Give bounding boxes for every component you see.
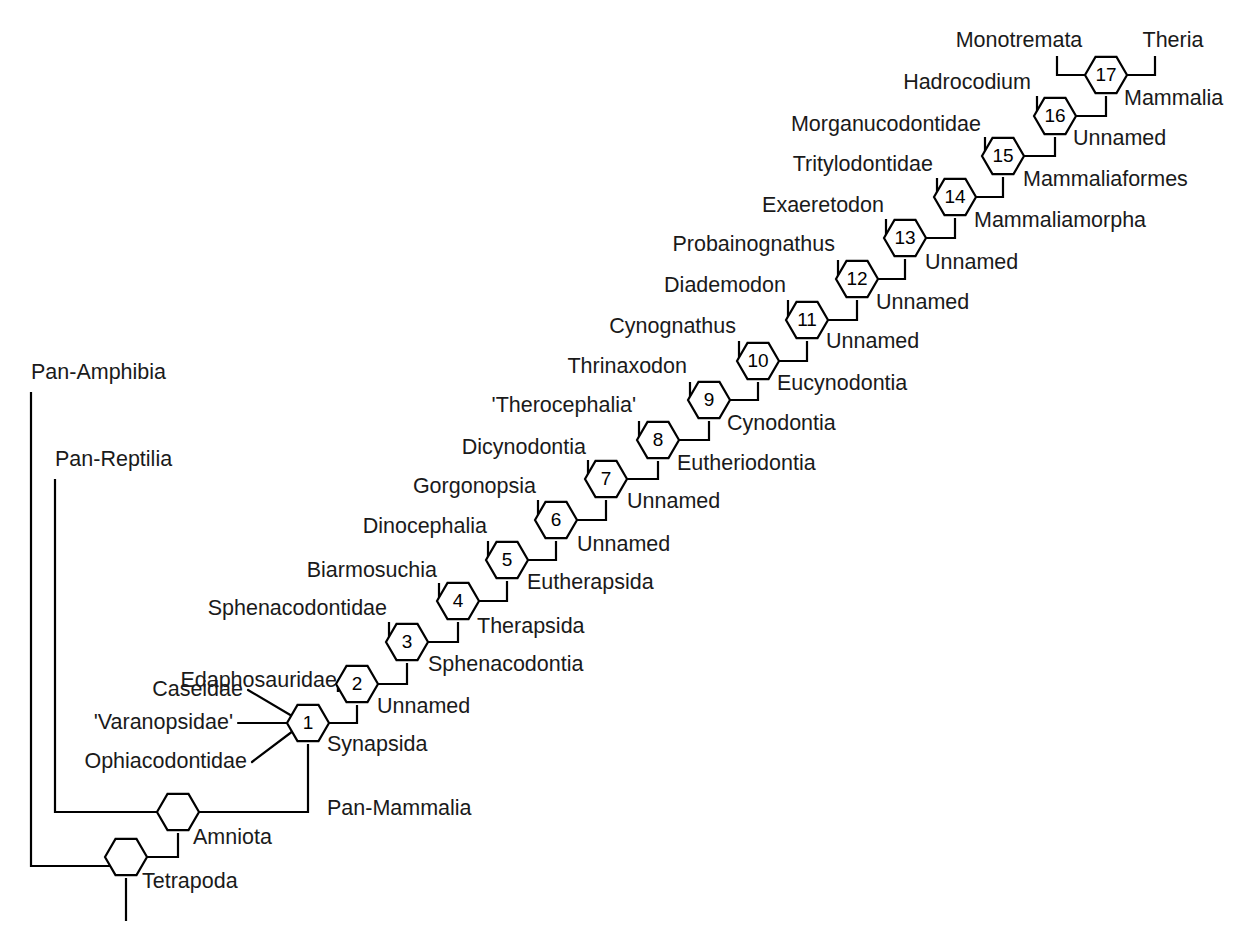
clade-node-4[interactable]: 4: [437, 583, 479, 619]
labels-group: Pan-AmphibiaPan-ReptiliaTetrapodaAmniota…: [31, 28, 1223, 893]
node-number-label: 4: [453, 590, 464, 611]
taxon-label-tritylodontidae: Tritylodontidae: [793, 152, 933, 176]
clade-node-6[interactable]: 6: [535, 502, 577, 538]
taxon-label-unnamed-11: Unnamed: [826, 329, 919, 353]
taxon-label-varanopsidae: 'Varanopsidae': [94, 710, 233, 734]
clade-node-9[interactable]: 9: [688, 382, 730, 418]
taxon-label-eucynodontia: Eucynodontia: [777, 371, 907, 395]
node-number-label: 2: [352, 673, 363, 694]
node6-to-node7: [575, 500, 606, 520]
node-number-label: 7: [601, 468, 612, 489]
node-number-label: 8: [653, 429, 664, 450]
taxon-label-ophiacodontidae: Ophiacodontidae: [84, 749, 247, 773]
taxon-label-biarmosuchia: Biarmosuchia: [307, 558, 437, 582]
taxon-label-exaeretodon: Exaeretodon: [762, 193, 884, 217]
node12-to-node13: [876, 259, 905, 279]
taxon-label-dinocephalia: Dinocephalia: [363, 514, 487, 538]
node5-to-node6: [526, 541, 556, 560]
taxon-label-monotremata: Monotremata: [956, 28, 1083, 52]
node8-to-node9: [677, 421, 709, 440]
taxon-label-synapsida: Synapsida: [327, 732, 427, 756]
cladogram-figure: 1234567891011121314151617 Pan-AmphibiaPa…: [0, 0, 1245, 934]
taxon-label-pan-amphibia: Pan-Amphibia: [31, 360, 166, 384]
node11-to-node12: [826, 300, 857, 320]
node-number-label: 15: [992, 145, 1013, 166]
node17-right: [1127, 56, 1155, 75]
taxon-label-amniota: Amniota: [193, 825, 272, 849]
caseidae-leader: [248, 690, 292, 716]
taxon-label-morganucodontidae: Morganucodontidae: [791, 112, 981, 136]
node3-to-node4: [426, 622, 458, 642]
taxon-label-mammaliaformes: Mammaliaformes: [1023, 167, 1188, 191]
taxon-label-edaphosauridae: Edaphosauridae: [180, 668, 337, 692]
node-number-label: 6: [551, 509, 562, 530]
taxon-label-pan-reptilia: Pan-Reptilia: [55, 447, 172, 471]
taxon-label-unnamed-6: Unnamed: [577, 532, 670, 556]
clade-node-5[interactable]: 5: [486, 542, 528, 578]
nodes-group: 1234567891011121314151617: [105, 57, 1127, 875]
node17-left: [1057, 56, 1085, 75]
node15-to-node16: [1022, 137, 1055, 156]
node-number-label: 13: [894, 227, 915, 248]
ophiacodontidae-leader: [252, 731, 293, 762]
node2-to-node3: [376, 663, 407, 684]
taxon-label-therocephalia: 'Therocephalia': [492, 393, 636, 417]
taxon-label-gorgonopsia: Gorgonopsia: [413, 474, 536, 498]
taxon-label-unnamed-7: Unnamed: [627, 489, 720, 513]
clade-node-3[interactable]: 3: [386, 624, 428, 660]
taxon-label-sphenacodontidae: Sphenacodontidae: [208, 596, 387, 620]
taxon-label-probainognathus: Probainognathus: [672, 232, 835, 256]
node14-to-node15: [974, 177, 1003, 197]
node-number-label: 16: [1044, 105, 1065, 126]
node7-to-node8: [625, 461, 658, 479]
clade-node-1[interactable]: 1: [287, 705, 329, 741]
taxon-label-dicynodontia: Dicynodontia: [462, 435, 586, 459]
clade-node-16[interactable]: 16: [1034, 98, 1076, 134]
node-number-label: 17: [1095, 64, 1116, 85]
clade-node-17[interactable]: 17: [1085, 57, 1127, 93]
taxon-label-tetrapoda: Tetrapoda: [142, 869, 238, 893]
node-number-label: 9: [704, 389, 715, 410]
taxon-label-thrinaxodon: Thrinaxodon: [567, 354, 687, 378]
clade-node-13[interactable]: 13: [884, 220, 926, 256]
taxon-label-eutheriodontia: Eutheriodontia: [677, 451, 816, 475]
taxon-label-eutherapsida: Eutherapsida: [527, 570, 654, 594]
clade-node-tetrapoda[interactable]: [105, 839, 147, 875]
taxon-label-cynognathus: Cynognathus: [609, 314, 736, 338]
node-number-label: 12: [846, 268, 867, 289]
taxon-label-hadrocodium: Hadrocodium: [903, 70, 1031, 94]
taxon-label-pan-mammalia: Pan-Mammalia: [327, 796, 472, 820]
taxon-label-cynodontia: Cynodontia: [727, 411, 836, 435]
node-number-label: 10: [747, 350, 768, 371]
clade-node-14[interactable]: 14: [934, 179, 976, 215]
taxon-label-therapsida: Therapsida: [477, 614, 585, 638]
clade-node-15[interactable]: 15: [982, 138, 1024, 174]
node-number-label: 1: [303, 712, 314, 733]
taxon-label-unnamed-16: Unnamed: [1073, 126, 1166, 150]
hexagon-icon: [105, 839, 147, 875]
cladogram-svg: 1234567891011121314151617 Pan-AmphibiaPa…: [0, 0, 1245, 934]
clade-node-7[interactable]: 7: [585, 461, 627, 497]
taxon-label-sphenacodontia: Sphenacodontia: [428, 652, 583, 676]
taxon-label-unnamed-12: Unnamed: [876, 290, 969, 314]
taxon-label-diademodon: Diademodon: [664, 273, 786, 297]
taxon-label-theria: Theria: [1143, 28, 1204, 52]
node1-to-node2: [327, 705, 357, 723]
clade-node-12[interactable]: 12: [836, 261, 878, 297]
node-number-label: 11: [797, 309, 817, 330]
tetrapoda-to-amniota: [145, 833, 178, 857]
node-number-label: 5: [502, 549, 513, 570]
clade-node-11[interactable]: 11: [786, 302, 828, 338]
taxon-label-unnamed-2: Unnamed: [377, 694, 470, 718]
node9-to-node10: [728, 382, 758, 400]
node-number-label: 3: [402, 631, 413, 652]
node16-to-node17: [1074, 96, 1106, 116]
clade-node-10[interactable]: 10: [737, 343, 779, 379]
taxon-label-mammalia: Mammalia: [1124, 86, 1223, 110]
clade-node-2[interactable]: 2: [336, 666, 378, 702]
node10-to-node11: [777, 341, 807, 361]
node-number-label: 14: [944, 186, 966, 207]
clade-node-8[interactable]: 8: [637, 422, 679, 458]
node13-to-node14: [924, 218, 955, 238]
taxon-label-mammaliamorpha: Mammaliamorpha: [974, 208, 1146, 232]
